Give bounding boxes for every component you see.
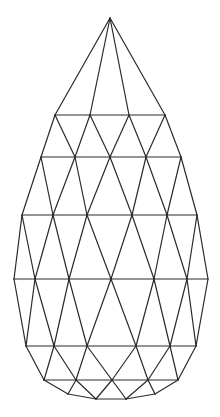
teardrop-mesh-diagram [0, 0, 220, 417]
background [0, 0, 220, 417]
